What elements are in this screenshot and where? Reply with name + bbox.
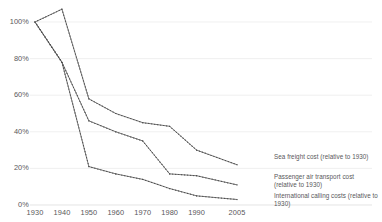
data-series-group (34, 9, 237, 201)
chart-plot-area (0, 0, 382, 222)
series-label-passenger-air-transport: Passenger air transport cost (relative t… (274, 173, 378, 188)
y-tick-label-20pct: 20% (0, 163, 29, 172)
y-tick-label-60pct: 60% (0, 90, 29, 99)
series-label-sea-freight: Sea freight cost (relative to 1930) (274, 153, 382, 161)
series-line-international-calling (35, 22, 237, 200)
series-line-passenger-air-transport (35, 22, 237, 185)
y-tick-label-80pct: 80% (0, 54, 29, 63)
x-tick-label-2005: 2005 (221, 208, 253, 217)
y-tick-label-40pct: 40% (0, 127, 29, 136)
series-markers-international-calling (34, 21, 237, 200)
series-markers-sea-freight (34, 9, 237, 166)
x-tick-label-1990: 1990 (181, 208, 213, 217)
series-line-sea-freight (35, 9, 237, 165)
chart-container: 0%20%40%60%80%100% 193019401950196019701… (0, 0, 382, 222)
y-tick-label-100pct: 100% (0, 17, 29, 26)
series-label-international-calling: International calling costs (relative to… (274, 192, 380, 207)
series-markers-passenger-air-transport (34, 21, 237, 185)
